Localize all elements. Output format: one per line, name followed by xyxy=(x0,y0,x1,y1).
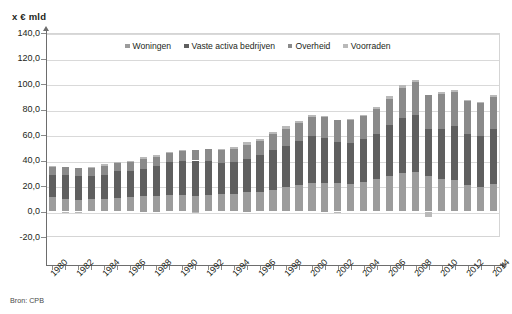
bar-segment xyxy=(464,134,471,185)
bar-segment xyxy=(282,146,289,187)
legend-swatch-icon xyxy=(125,44,130,49)
bar-segment xyxy=(425,176,432,212)
x-axis-tick xyxy=(195,266,196,270)
bar-segment xyxy=(490,129,497,184)
bar-segment xyxy=(101,166,108,174)
bar-segment xyxy=(88,176,95,199)
x-axis-tick xyxy=(429,266,430,270)
bar-segment xyxy=(425,212,432,218)
legend-swatch-icon xyxy=(343,44,348,49)
bar-segment xyxy=(218,150,225,163)
y-axis-tick xyxy=(41,135,46,136)
bar-segment xyxy=(205,149,212,161)
bar-segment xyxy=(153,166,160,195)
bar-segment xyxy=(192,161,199,196)
bar-segment xyxy=(308,183,315,211)
legend-label: Vaste activa bedrijven xyxy=(192,41,275,51)
bar-segment xyxy=(295,121,302,123)
legend-item[interactable]: Voorraden xyxy=(343,41,390,51)
x-axis-tick xyxy=(325,266,326,270)
legend-item[interactable]: Vaste activa bedrijven xyxy=(184,41,275,51)
bar-segment xyxy=(464,101,471,135)
bar-segment xyxy=(256,139,263,140)
x-axis-tick xyxy=(143,266,144,270)
y-axis-tick xyxy=(41,186,46,187)
bar-segment xyxy=(101,164,108,167)
bar-segment xyxy=(373,107,380,109)
legend-item[interactable]: Overheid xyxy=(288,41,330,51)
y-axis-tick xyxy=(41,33,46,34)
bar-segment xyxy=(230,194,237,212)
bar-segment xyxy=(347,119,354,120)
bar-segment xyxy=(192,196,199,212)
legend-item[interactable]: Woningen xyxy=(125,41,171,51)
bar-segment xyxy=(256,192,263,212)
bar-segment xyxy=(153,157,160,167)
bar-segment xyxy=(308,115,315,117)
x-axis-tick xyxy=(169,266,170,270)
bar-segment xyxy=(243,142,250,145)
bar-segment xyxy=(140,157,147,159)
bar-segment xyxy=(373,134,380,179)
bar-segment xyxy=(243,159,250,193)
bar-segment xyxy=(347,143,354,184)
bar-segment xyxy=(62,199,69,211)
bar-segment xyxy=(140,196,147,212)
bar-segment xyxy=(114,198,121,211)
bar-segment xyxy=(230,162,237,193)
bar-segment xyxy=(451,92,458,126)
bar-segment xyxy=(477,102,484,103)
bar-segment xyxy=(464,185,471,211)
bar-segment xyxy=(114,163,121,171)
bar-segment xyxy=(360,139,367,181)
bar-segment xyxy=(166,152,173,153)
bar-segment xyxy=(399,88,406,117)
y-axis-tick xyxy=(41,212,46,213)
bar-segment xyxy=(334,142,341,183)
bar-segment xyxy=(308,136,315,183)
x-axis-tick xyxy=(299,266,300,270)
bar-segment xyxy=(334,212,341,213)
bar-segment xyxy=(451,90,458,91)
bar-segment xyxy=(114,162,121,163)
bar-segment xyxy=(282,129,289,146)
bar-segment xyxy=(386,176,393,212)
bar-segment xyxy=(386,125,393,175)
bar-segment xyxy=(88,168,95,177)
bar-segment xyxy=(127,197,134,212)
x-axis-tick xyxy=(377,266,378,270)
x-axis-tick xyxy=(403,266,404,270)
bar-segment xyxy=(192,212,199,214)
bar-segment xyxy=(75,176,82,200)
bar-segment xyxy=(425,129,432,176)
y-axis-tick xyxy=(41,237,46,238)
bar-segment xyxy=(75,200,82,211)
bar-segment xyxy=(88,199,95,211)
bar-segment xyxy=(490,97,497,129)
x-axis-tick xyxy=(117,266,118,270)
bar-segment xyxy=(218,163,225,194)
bar-segment xyxy=(438,179,445,212)
legend-label: Voorraden xyxy=(351,41,391,51)
bar-segment xyxy=(127,171,134,197)
bar-segment xyxy=(101,199,108,211)
bar-segment xyxy=(295,141,302,184)
bar-segment xyxy=(166,162,173,195)
bar-segment xyxy=(347,120,354,143)
bar-segment xyxy=(490,95,497,98)
bar-segment xyxy=(218,149,225,150)
bar-segment xyxy=(347,184,354,211)
bar-segment xyxy=(438,129,445,179)
bar-segment xyxy=(477,187,484,211)
bar-segment xyxy=(321,116,328,117)
legend-swatch-icon xyxy=(288,44,293,49)
bar-segment xyxy=(412,172,419,212)
bar-segment xyxy=(477,103,484,136)
y-axis-tick xyxy=(41,161,46,162)
source-note: Bron: CPB xyxy=(10,296,44,305)
bar-segment xyxy=(192,150,199,161)
bar-segment xyxy=(101,175,108,200)
bar-segment xyxy=(49,175,56,197)
bar-segment xyxy=(360,116,367,140)
bar-segment xyxy=(62,212,69,213)
